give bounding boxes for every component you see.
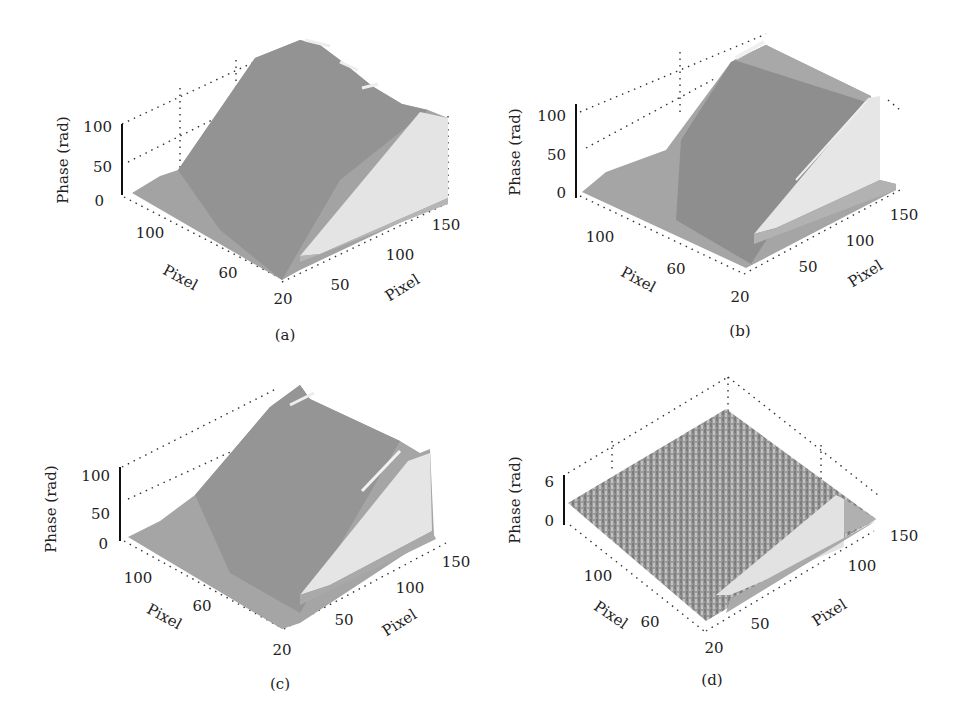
- surface-plot-d: 6 0 Phase (rad) 100 60 20 Pixel 50 100 1…: [476, 363, 952, 726]
- y-axis-label: Pixel: [379, 605, 420, 640]
- y-tick: 50: [750, 615, 769, 633]
- panel-c: 100 50 0 Phase (rad) 100 60 20 Pixel 50 …: [0, 363, 476, 726]
- y-tick: 100: [848, 557, 877, 575]
- panel-a: 100 50 0 Phase (rad) 100 60 20 Pixel 50 …: [0, 0, 476, 363]
- surface-plot-b: 100 50 0 Phase (rad) 100 60 20 Pixel 50 …: [476, 0, 952, 363]
- y-axis-label: Pixel: [809, 595, 850, 630]
- panel-caption: (c): [270, 675, 290, 693]
- z-tick: 100: [537, 107, 566, 125]
- panel-b: 100 50 0 Phase (rad) 100 60 20 Pixel 50 …: [476, 0, 952, 363]
- z-tick: 6: [544, 473, 554, 491]
- x-tick: 60: [218, 264, 237, 282]
- x-tick: 100: [136, 224, 165, 242]
- z-axis-label: Phase (rad): [54, 116, 72, 203]
- x-tick: 20: [704, 639, 723, 657]
- y-tick: 50: [798, 258, 817, 276]
- x-tick: 100: [124, 569, 153, 587]
- x-tick: 60: [192, 597, 211, 615]
- z-tick: 50: [547, 146, 566, 164]
- y-tick: 150: [890, 206, 919, 224]
- y-tick: 150: [890, 527, 919, 545]
- x-tick: 100: [586, 228, 615, 246]
- z-tick: 50: [93, 158, 112, 176]
- y-tick: 50: [334, 611, 353, 629]
- z-tick: 100: [83, 118, 112, 136]
- panel-caption: (d): [701, 671, 722, 689]
- z-axis-label: Phase (rad): [42, 465, 60, 552]
- x-tick: 100: [584, 567, 613, 585]
- z-tick: 0: [98, 535, 108, 553]
- panel-caption: (a): [275, 326, 296, 344]
- z-tick: 0: [94, 192, 104, 210]
- z-tick: 50: [91, 505, 110, 523]
- x-axis-label: Pixel: [618, 263, 659, 296]
- y-axis-label: Pixel: [382, 270, 423, 305]
- surface-plot-a: 100 50 0 Phase (rad) 100 60 20 Pixel 50 …: [0, 0, 476, 363]
- y-tick: 150: [442, 553, 471, 571]
- surface-plot-c: 100 50 0 Phase (rad) 100 60 20 Pixel 50 …: [0, 363, 476, 726]
- x-axis-label: Pixel: [160, 261, 201, 294]
- panel-d: 6 0 Phase (rad) 100 60 20 Pixel 50 100 1…: [476, 363, 952, 726]
- y-axis-label: Pixel: [845, 256, 886, 291]
- y-tick: 100: [396, 579, 425, 597]
- x-tick: 20: [273, 290, 292, 308]
- z-tick: 0: [544, 512, 554, 530]
- y-tick: 100: [846, 232, 875, 250]
- x-tick: 60: [640, 613, 659, 631]
- y-tick: 150: [432, 216, 461, 234]
- z-axis-label: Phase (rad): [506, 108, 524, 195]
- y-tick: 100: [386, 246, 415, 264]
- z-axis-label: Phase (rad): [506, 456, 524, 543]
- panel-caption: (b): [729, 322, 750, 340]
- y-tick: 50: [330, 276, 349, 294]
- x-tick: 20: [272, 641, 291, 659]
- z-tick: 0: [556, 184, 566, 202]
- x-axis-label: Pixel: [590, 597, 631, 633]
- x-axis-label: Pixel: [144, 600, 185, 633]
- x-tick: 20: [730, 288, 749, 306]
- z-tick: 100: [81, 467, 110, 485]
- x-tick: 60: [666, 260, 685, 278]
